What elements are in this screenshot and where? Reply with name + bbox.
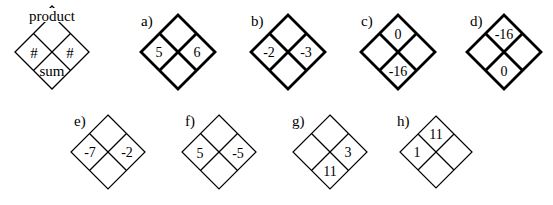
cell-right: -3 — [300, 45, 312, 60]
key-right-label: # — [66, 45, 74, 61]
problem-c: c) 0 -16 — [361, 13, 435, 89]
problem-label: g) — [292, 113, 305, 130]
diamond-problems-diagram: product # # sum a) 5 6 b) -2 -3 — [0, 0, 553, 205]
problem-d: d) -16 0 — [467, 13, 541, 89]
cell-left: 5 — [156, 45, 163, 60]
problem-label: d) — [470, 13, 483, 30]
cell-left: -7 — [84, 145, 96, 160]
problem-label: h) — [397, 113, 410, 130]
cell-right: 6 — [194, 45, 201, 60]
cell-left: 5 — [197, 146, 204, 161]
cell-right: 3 — [345, 145, 352, 160]
cell-left: -2 — [263, 45, 275, 60]
cell-bottom: 11 — [323, 164, 336, 179]
cell-left: 1 — [414, 145, 421, 160]
key-top-label: product — [29, 8, 76, 24]
problem-g: g) 3 11 — [292, 113, 367, 189]
key-left-label: # — [30, 45, 38, 61]
problem-h: h) 11 1 — [397, 113, 472, 188]
cell-top: -16 — [495, 27, 514, 42]
problem-label: e) — [74, 113, 86, 130]
key-bottom-label: sum — [39, 63, 64, 79]
cell-right: -5 — [232, 146, 244, 161]
problem-a: a) 5 6 — [141, 13, 215, 89]
cell-bottom: 0 — [501, 64, 508, 79]
problem-b: b) -2 -3 — [251, 13, 325, 89]
cell-right: -2 — [121, 145, 133, 160]
problem-label: f) — [185, 113, 195, 130]
cell-top: 0 — [395, 27, 402, 42]
cell-bottom: -16 — [389, 64, 408, 79]
problem-label: b) — [251, 13, 264, 30]
problem-e: e) -7 -2 — [71, 113, 145, 189]
problem-label: a) — [141, 13, 153, 30]
cell-top: 11 — [429, 127, 442, 142]
problem-f: f) 5 -5 — [182, 113, 256, 189]
problem-label: c) — [361, 13, 373, 30]
